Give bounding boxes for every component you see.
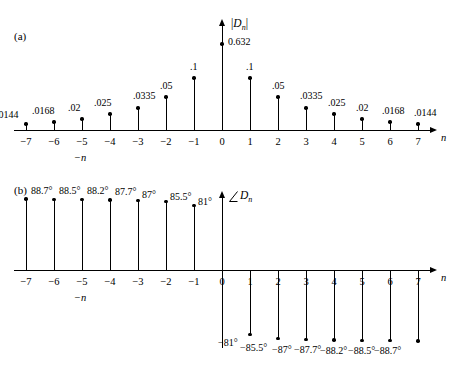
angle-icon (229, 191, 238, 203)
panel-b-stem-3 (306, 270, 307, 340)
panel-b-stem--7 (26, 199, 27, 270)
panel-b-dot-5 (360, 339, 363, 342)
panel-b-dot--7 (24, 197, 27, 200)
panel-b-tick-label-0: 0 (208, 276, 236, 287)
panel-b-value-label-3: −87° (272, 344, 292, 355)
panel-b-stem-2 (278, 270, 279, 338)
panel-phase-spectrum: (b) n Dn −7−6−5−4−3−2−10123456788.7°88.5… (0, 0, 455, 378)
panel-b-value-label--4: 87.7° (115, 186, 137, 197)
panel-b-y-axis-label: Dn (229, 189, 252, 204)
panel-b-tick-label--7: −7 (12, 276, 40, 287)
panel-b-stem--4 (110, 200, 111, 270)
panel-b-dot--3 (136, 199, 139, 202)
panel-b-stem-4 (334, 270, 335, 340)
panel-b-stem-6 (390, 270, 391, 341)
panel-b-stem--3 (138, 200, 139, 270)
panel-b-dot-2 (276, 337, 279, 340)
panel-b-value-label--3: 87° (142, 189, 156, 200)
panel-b-tick-label--5: −5 (68, 276, 96, 287)
panel-b-dot-3 (304, 338, 307, 341)
panel-b-negative-n-label: −n (62, 292, 98, 303)
panel-b-tick-label--3: −3 (124, 276, 152, 287)
panel-b-dot--5 (80, 198, 83, 201)
panel-b-value-label-7: −88.7° (374, 345, 401, 356)
panel-b-stem--5 (82, 199, 83, 270)
panel-b-stem-1 (250, 270, 251, 335)
panel-b-value-label--1: 81° (198, 196, 212, 207)
panel-b-value-label--7: 88.7° (31, 185, 53, 196)
panel-b-dot-6 (388, 339, 391, 342)
panel-b-value-label-1: −81° (218, 337, 238, 348)
panel-b-dot--2 (164, 200, 167, 203)
panel-b-value-label-2: −85.5° (240, 342, 267, 353)
panel-b-value-label--6: 88.5° (59, 185, 81, 196)
panel-b-dot-4 (332, 338, 335, 341)
panel-b-x-axis (14, 270, 432, 271)
panel-b-y-axis (222, 198, 223, 348)
panel-b-value-label--5: 88.2° (87, 185, 109, 196)
panel-b-stem-5 (362, 270, 363, 341)
panel-b-stem-7 (418, 270, 419, 341)
panel-b-tag: (b) (14, 184, 27, 196)
panel-b-y-axis-arrow-icon (219, 191, 225, 198)
panel-b-tick-label--1: −1 (180, 276, 208, 287)
panel-b-dot--6 (52, 198, 55, 201)
panel-b-tick-label--4: −4 (96, 276, 124, 287)
panel-b-tick-label--2: −2 (152, 276, 180, 287)
panel-b-stem--6 (54, 199, 55, 270)
panel-b-value-label-5: −88.2° (320, 345, 347, 356)
panel-b-value-label-4: −87.7° (294, 344, 321, 355)
panel-b-dot-1 (248, 333, 251, 336)
panel-b-tick-label--6: −6 (40, 276, 68, 287)
panel-b-value-label--2: 85.5° (170, 191, 192, 202)
panel-b-dot-7 (416, 339, 419, 342)
panel-b-x-axis-arrow-icon (430, 267, 437, 273)
panel-b-stem--2 (166, 202, 167, 270)
panel-b-value-label-6: −88.5° (348, 345, 375, 356)
panel-b-dot--1 (192, 204, 195, 207)
panel-b-stem--1 (194, 205, 195, 270)
panel-b-dot--4 (108, 198, 111, 201)
panel-b-x-axis-name: n (441, 272, 446, 283)
figure-spectra: (a) n |Dn| −7−6−5−4−3−2−101234567.0144.0… (0, 0, 455, 378)
